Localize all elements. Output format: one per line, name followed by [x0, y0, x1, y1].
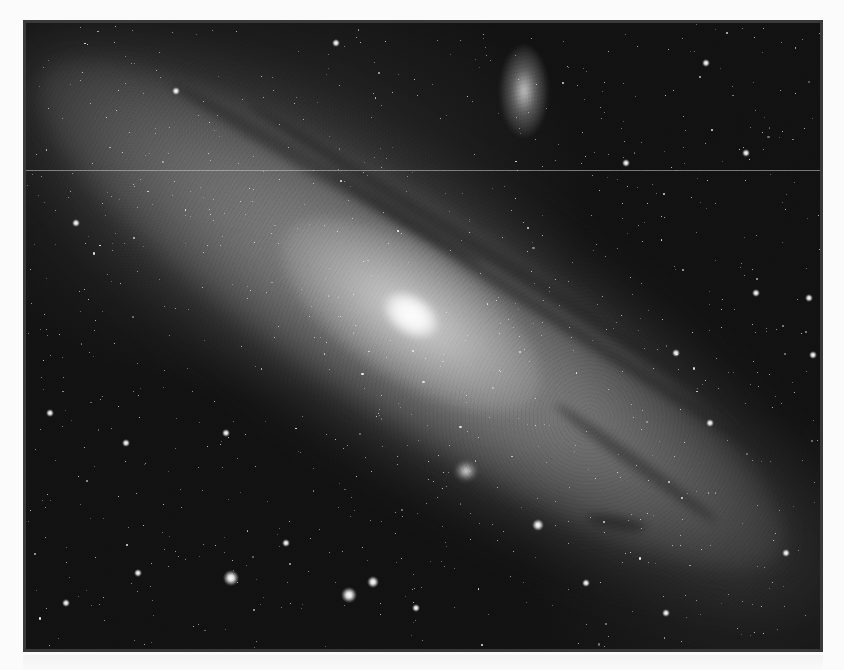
- andromeda-photo: [23, 20, 823, 652]
- blank-caption-area: [23, 655, 823, 670]
- grain-overlay: [26, 23, 820, 649]
